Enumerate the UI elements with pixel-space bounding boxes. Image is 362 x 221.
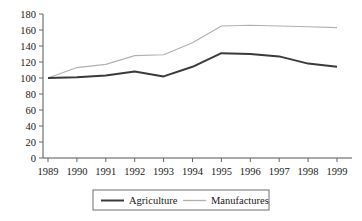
x-axis-label-1995: 1995: [211, 166, 232, 177]
y-axis-label-60: 60: [26, 105, 37, 116]
x-axis-label-1989: 1989: [38, 166, 59, 177]
line-chart: 180 160 140 120 100 80 60 40 20 0 1989: [0, 0, 362, 221]
y-axis-label-120: 120: [20, 57, 36, 68]
y-axis-label-0: 0: [31, 153, 36, 164]
y-axis-group: 180 160 140 120 100 80 60 40 20 0: [20, 9, 43, 164]
y-axis-label-40: 40: [26, 121, 37, 132]
x-axis-label-1999: 1999: [327, 166, 348, 177]
x-axis-label-1998: 1998: [298, 166, 319, 177]
legend: Agriculture Manufactures: [93, 190, 269, 210]
series-group: [48, 25, 337, 78]
x-axis-label-1991: 1991: [95, 166, 116, 177]
series-line-manufactures: [48, 25, 337, 78]
y-axis-label-160: 160: [20, 25, 36, 36]
y-axis-label-80: 80: [26, 89, 37, 100]
x-axis-label-1993: 1993: [153, 166, 174, 177]
legend-label-agriculture: Agriculture: [129, 195, 178, 206]
y-axis-label-100: 100: [20, 73, 36, 84]
chart-canvas: 180 160 140 120 100 80 60 40 20 0 1989: [0, 0, 362, 221]
x-axis-label-1992: 1992: [124, 166, 145, 177]
y-axis-label-20: 20: [26, 137, 37, 148]
y-axis-label-140: 140: [20, 41, 36, 52]
x-axis-label-1990: 1990: [66, 166, 87, 177]
x-axis-label-1996: 1996: [240, 166, 261, 177]
legend-label-manufactures: Manufactures: [211, 195, 269, 206]
x-axis-group: 1989 1990 1991 1992 1993 1994 1995 1996 …: [38, 158, 353, 177]
y-axis-label-180: 180: [20, 9, 36, 20]
x-axis-label-1997: 1997: [269, 166, 290, 177]
x-axis-label-1994: 1994: [182, 166, 204, 177]
